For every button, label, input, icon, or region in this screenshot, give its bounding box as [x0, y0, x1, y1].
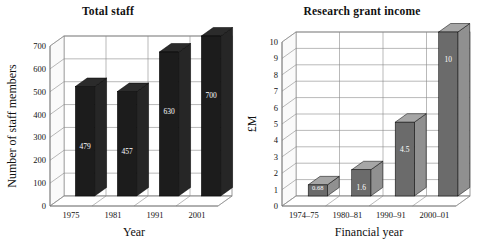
chart-svg-research-grant-income: 0123456789100.681974–751.61980–814.51990…: [246, 0, 492, 244]
y-tick-label: 200: [33, 155, 46, 165]
x-category-label: 1974–75: [289, 210, 319, 220]
bar[interactable]: [395, 122, 414, 196]
y-tick-label: 500: [33, 87, 46, 97]
bar-side: [95, 78, 107, 196]
y-tick-label: 600: [33, 64, 46, 74]
x-category-label: 2000–01: [419, 210, 449, 220]
y-tick-label: 1: [274, 185, 278, 195]
y-tick-label: 0: [42, 201, 46, 211]
bar-value-label: 479: [79, 142, 91, 151]
y-tick-label: 5: [274, 119, 278, 129]
bar-value-label: 457: [121, 147, 133, 156]
y-axis-title: Number of staff members: [5, 64, 19, 188]
bar-side: [137, 83, 149, 196]
y-tick-label: 2: [274, 168, 278, 178]
bar-value-label: 1.6: [357, 183, 367, 192]
y-tick-label: 6: [274, 103, 278, 113]
bar[interactable]: [117, 92, 136, 196]
y-tick-label: 0: [274, 201, 278, 211]
bar-side: [221, 28, 233, 197]
chart-panel-total-staff: Total staff 0100200300400500600700479197…: [0, 0, 246, 244]
bar-value-label: 700: [205, 91, 217, 100]
y-tick-label: 8: [274, 70, 278, 80]
x-axis-title: Financial year: [335, 225, 403, 239]
y-tick-label: 3: [274, 152, 278, 162]
y-tick-label: 700: [33, 41, 46, 51]
y-tick-label: 400: [33, 110, 46, 120]
chart-svg-total-staff: 0100200300400500600700479197545719816301…: [0, 0, 246, 244]
bar-value-label: 10: [445, 55, 453, 64]
y-tick-label: 4: [274, 135, 279, 145]
y-tick-label: 300: [33, 132, 46, 142]
bar-value-label: 4.5: [400, 145, 410, 154]
x-category-label: 1980–81: [332, 210, 362, 220]
figure-canvas: Total staff 0100200300400500600700479197…: [0, 0, 492, 244]
y-axis-title: £M: [246, 115, 259, 132]
bar-value-label: 630: [163, 107, 175, 116]
x-axis-title: Year: [123, 225, 145, 239]
bar-side: [458, 24, 470, 197]
x-category-label: 1981: [105, 210, 122, 220]
bar[interactable]: [159, 52, 178, 196]
y-tick-label: 7: [274, 86, 278, 96]
x-category-label: 1991: [147, 210, 164, 220]
y-tick-label: 9: [274, 53, 278, 63]
bar-side: [179, 44, 191, 197]
y-tick-label: 10: [270, 37, 279, 47]
bar-value-label: 0.68: [312, 184, 323, 191]
y-tick-label: 100: [33, 178, 46, 188]
chart-panel-research-grant-income: Research grant income 0123456789100.6819…: [246, 0, 492, 244]
bar[interactable]: [201, 36, 220, 196]
x-category-label: 1975: [63, 210, 80, 220]
x-category-label: 2001: [189, 210, 206, 220]
x-category-label: 1990–91: [376, 210, 406, 220]
bar-side: [414, 114, 426, 196]
